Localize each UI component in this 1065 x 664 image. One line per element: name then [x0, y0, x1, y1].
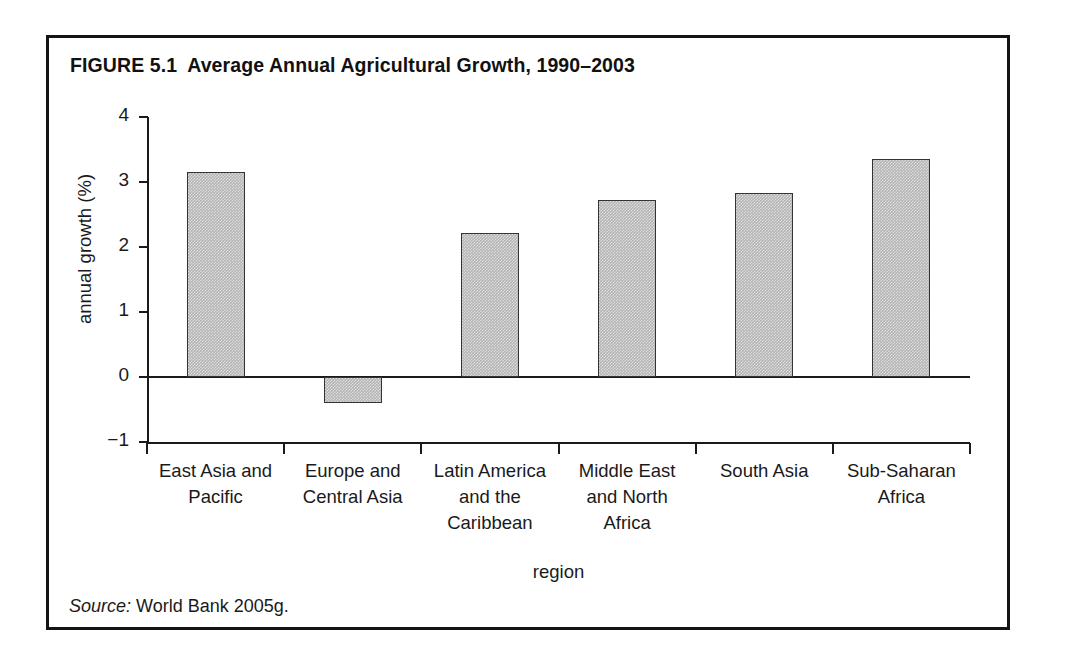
- x-axis-divider: [146, 443, 148, 454]
- y-axis-tick: [139, 181, 148, 183]
- category-label-line: Africa: [559, 510, 696, 536]
- x-axis-divider: [695, 443, 697, 454]
- category-label-line: and North: [559, 484, 696, 510]
- y-axis-tick-label: 2: [69, 234, 129, 256]
- category-label-line: Caribbean: [421, 510, 558, 536]
- y-axis-tick: [139, 116, 148, 118]
- y-axis-tick-label: 1: [69, 299, 129, 321]
- x-axis-divider: [420, 443, 422, 454]
- y-axis-tick-label: 3: [69, 169, 129, 191]
- category-label-line: Sub-Saharan: [833, 458, 970, 484]
- bar[interactable]: [872, 159, 930, 377]
- x-axis-title: region: [147, 561, 970, 583]
- category-label-line: South Asia: [696, 458, 833, 484]
- zero-baseline: [147, 376, 970, 378]
- y-axis-tick-label: 0: [69, 364, 129, 386]
- category-label-line: Africa: [833, 484, 970, 510]
- x-axis-category-label: Middle Eastand NorthAfrica: [559, 458, 696, 536]
- y-axis-tick: [139, 246, 148, 248]
- bar[interactable]: [187, 172, 245, 377]
- x-axis-divider: [283, 443, 285, 454]
- y-axis-line: [147, 117, 149, 444]
- x-axis-category-label: East Asia andPacific: [147, 458, 284, 510]
- y-axis-tick: [139, 311, 148, 313]
- bar[interactable]: [461, 233, 519, 377]
- x-axis-category-label: Europe andCentral Asia: [284, 458, 421, 510]
- y-axis-tick-label: 4: [69, 104, 129, 126]
- x-axis-divider: [969, 443, 971, 454]
- x-axis-category-label: Sub-SaharanAfrica: [833, 458, 970, 510]
- x-axis-category-label: South Asia: [696, 458, 833, 484]
- category-label-line: Latin America: [421, 458, 558, 484]
- category-label-line: East Asia and: [147, 458, 284, 484]
- x-axis-category-label: Latin Americaand theCaribbean: [421, 458, 558, 536]
- category-label-line: Middle East: [559, 458, 696, 484]
- y-axis-tick: [139, 376, 148, 378]
- x-axis-divider: [558, 443, 560, 454]
- bar[interactable]: [598, 200, 656, 377]
- bar[interactable]: [324, 377, 382, 403]
- x-axis-divider: [832, 443, 834, 454]
- source-label: Source:: [69, 596, 131, 616]
- category-label-line: Pacific: [147, 484, 284, 510]
- figure-frame: FIGURE 5.1Average Annual Agricultural Gr…: [46, 35, 1010, 630]
- category-label-line: and the: [421, 484, 558, 510]
- source-text: World Bank 2005g.: [136, 596, 289, 616]
- source-note: Source: World Bank 2005g.: [69, 596, 289, 617]
- category-label-line: Europe and: [284, 458, 421, 484]
- category-label-line: Central Asia: [284, 484, 421, 510]
- y-axis-tick-label: −1: [69, 429, 129, 451]
- chart-plot-area: annual growth (%) 43210−1 East Asia andP…: [49, 38, 1013, 633]
- bar[interactable]: [735, 193, 793, 377]
